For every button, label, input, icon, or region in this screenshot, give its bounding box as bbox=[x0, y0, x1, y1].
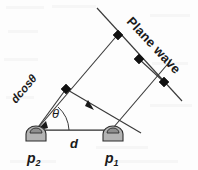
sensor-p1[interactable] bbox=[103, 126, 123, 141]
label-spacing: d bbox=[70, 136, 79, 151]
label-path-difference: dcosθ bbox=[8, 72, 39, 106]
ray-lower bbox=[113, 59, 172, 128]
diamond-marker bbox=[61, 84, 71, 94]
figure-container: Plane wave dcosθ θ d p2 p1 bbox=[0, 0, 198, 170]
label-sensor-p2-name: p bbox=[26, 150, 36, 166]
label-sensor-p2: p2 bbox=[26, 150, 41, 168]
label-sensor-p2-index: 2 bbox=[35, 158, 41, 168]
label-angle: θ bbox=[52, 106, 59, 121]
plane-wave-diagram: Plane wave dcosθ θ d p2 p1 bbox=[0, 0, 198, 170]
label-sensor-p1-index: 1 bbox=[114, 158, 119, 168]
ray-middle bbox=[66, 89, 141, 133]
angle-arc bbox=[58, 107, 69, 130]
label-sensor-p1-name: p bbox=[104, 150, 114, 166]
label-plane-wave: Plane wave bbox=[124, 14, 184, 77]
path-difference-line bbox=[36, 89, 66, 130]
label-sensor-p1: p1 bbox=[104, 150, 119, 168]
sensor-p2[interactable] bbox=[26, 126, 46, 141]
